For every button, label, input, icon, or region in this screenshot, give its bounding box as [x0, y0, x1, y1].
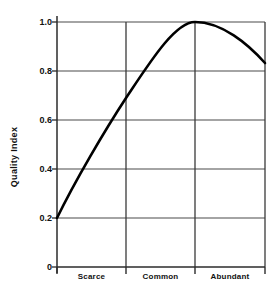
- x-category-label-common: Common: [126, 272, 195, 281]
- axis-lines: [57, 16, 265, 273]
- x-category-label-abundant: Abundant: [195, 272, 265, 281]
- chart-container: Quality Index 1.0 0.8 0.6 0.4 0.2 0: [0, 0, 280, 300]
- x-category-label-scarce: Scarce: [57, 272, 126, 281]
- gridlines-horizontal: [57, 22, 265, 218]
- gridlines-vertical: [126, 22, 265, 267]
- plot-area: [0, 0, 280, 300]
